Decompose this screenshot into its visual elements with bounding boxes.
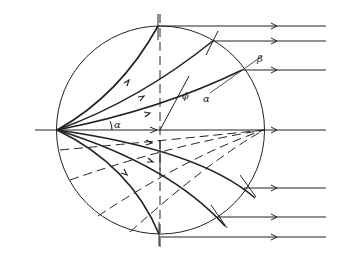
emergent-rays	[158, 26, 326, 237]
label-alpha-center: α	[114, 119, 121, 130]
ray-upper-2	[57, 40, 214, 130]
ray-lower-2-arrow	[147, 158, 153, 162]
label-phi: ϕ	[182, 90, 189, 101]
emergent-arrows	[271, 23, 277, 240]
ray-lower-1-arrow	[146, 140, 152, 145]
ray-upper-1-arrow	[124, 80, 129, 86]
label-alpha-ray: α	[203, 93, 210, 104]
beta-line	[210, 56, 262, 93]
tick-upper-2	[206, 31, 218, 55]
normal-line	[160, 76, 189, 130]
ray-lower-3-arrow	[121, 169, 127, 175]
alpha-arc	[110, 121, 112, 130]
ray-upper-3-arrow	[144, 112, 150, 117]
ray-upper-3	[57, 70, 242, 130]
dashed-ray-4	[60, 130, 264, 150]
label-beta: β	[256, 53, 263, 64]
ray-upper-1	[57, 26, 158, 130]
dashed-ray-2	[98, 130, 264, 216]
ray-diagram: α ϕ α β	[0, 0, 338, 258]
ray-upper-2-arrow	[138, 96, 144, 101]
